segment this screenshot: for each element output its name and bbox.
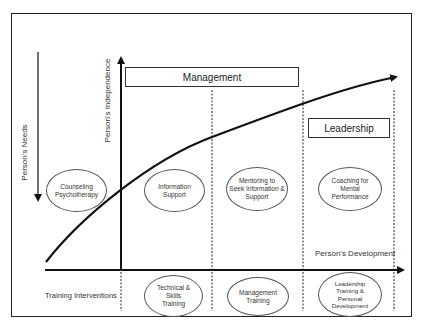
leadership-box: Leadership xyxy=(308,118,390,138)
ellipse-information-support-label: Information Support xyxy=(158,183,191,199)
ellipse-leadership-training-label: Leadership Training & Personal Developme… xyxy=(332,280,368,310)
training-interventions-label: Training Interventions xyxy=(45,291,117,300)
ellipse-counseling-label: Counseling Psychotherapy xyxy=(55,183,98,199)
persons-needs-label: Person's Needs xyxy=(20,121,29,185)
ellipse-information-support: Information Support xyxy=(144,169,205,212)
persons-independence-label: Person's Independence xyxy=(103,56,112,146)
ellipse-leadership-training: Leadership Training & Personal Developme… xyxy=(318,272,382,317)
diagram-canvas: Person's Needs Person's Independence Man… xyxy=(0,0,423,332)
ellipse-counseling: Counseling Psychotherapy xyxy=(46,169,107,212)
management-box: Management xyxy=(125,67,299,87)
ellipse-management-training: Management Training xyxy=(227,277,289,316)
ellipse-coaching: Coaching for Mental Performance xyxy=(318,167,382,211)
ellipse-mentoring-label: Mentoring to Seek Information & Support xyxy=(229,177,284,201)
ellipse-mentoring: Mentoring to Seek Information & Support xyxy=(226,167,288,211)
leadership-box-label: Leadership xyxy=(324,123,373,134)
management-box-label: Management xyxy=(183,72,241,83)
persons-development-label: Person's Development xyxy=(315,249,395,258)
ellipse-technical-training: Technical & Skills Training xyxy=(144,275,203,317)
ellipse-coaching-label: Coaching for Mental Performance xyxy=(331,177,368,201)
ellipse-technical-training-label: Technical & Skills Training xyxy=(157,284,190,308)
ellipse-management-training-label: Management Training xyxy=(239,289,277,305)
